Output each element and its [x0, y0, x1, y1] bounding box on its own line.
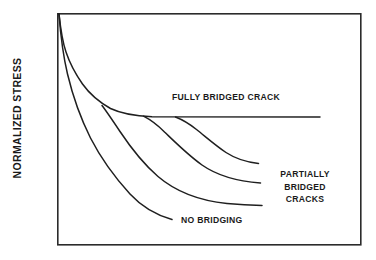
curve-partially-bridged-3: [176, 117, 259, 163]
annotation-partially-bridged-line2: BRIDGED: [284, 182, 326, 192]
plot-frame: [58, 14, 361, 245]
annotation-no-bridging: NO BRIDGING: [181, 215, 243, 225]
curve-partially-bridged-2: [144, 116, 261, 183]
plot-area: FULLY BRIDGED CRACK PARTIALLY BRIDGED CR…: [0, 0, 376, 260]
figure-container: NORMALIZED STRESS FULLY BRIDGED CRACK PA…: [0, 0, 376, 260]
curve-fully-bridged-crack: [59, 14, 320, 117]
annotation-partially-bridged-line1: PARTIALLY: [280, 169, 330, 179]
annotation-fully-bridged-crack: FULLY BRIDGED CRACK: [172, 92, 280, 102]
annotation-partially-bridged-line3: CRACKS: [286, 194, 325, 204]
